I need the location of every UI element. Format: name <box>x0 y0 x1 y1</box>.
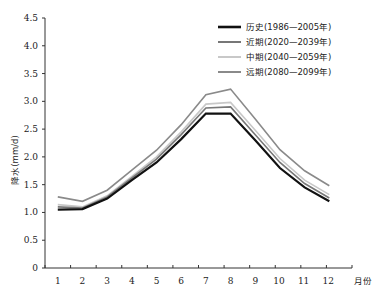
x-tick-label: 2 <box>80 276 86 286</box>
legend-label: 近期(2020—2039年) <box>246 37 331 47</box>
y-tick-label: 0.5 <box>24 235 39 245</box>
x-tick-label: 3 <box>104 276 110 286</box>
x-tick-label: 7 <box>203 276 209 286</box>
series-line <box>58 102 330 206</box>
x-tick-label: 1 <box>55 276 61 286</box>
x-tick-label: 11 <box>298 276 309 286</box>
y-tick-label: 0 <box>32 263 38 273</box>
x-tick-label: 8 <box>228 276 234 286</box>
y-tick-label: 3.5 <box>24 69 39 79</box>
y-axis-label: 降水(mm/d) <box>10 135 20 184</box>
y-tick-label: 1.5 <box>24 180 39 190</box>
series-lines <box>58 89 330 210</box>
y-tick-label: 2.0 <box>24 152 39 162</box>
precipitation-line-chart: 00.51.01.52.02.53.03.54.04.5123456789101… <box>0 0 375 292</box>
y-tick-label: 2.5 <box>24 124 39 134</box>
x-tick-label: 10 <box>273 276 285 286</box>
legend-label: 历史(1986—2005年) <box>246 22 331 32</box>
legend: 历史(1986—2005年)近期(2020—2039年)中期(2040—2059… <box>218 22 331 77</box>
x-tick-label: 4 <box>129 276 135 286</box>
legend-label: 中期(2040—2059年) <box>246 52 331 62</box>
series-line <box>58 89 330 201</box>
legend-label: 远期(2080—2099年) <box>246 67 331 77</box>
x-axis-label: 月份 <box>354 276 372 286</box>
y-tick-label: 3.0 <box>24 96 39 106</box>
series-line <box>58 114 330 210</box>
x-tick-label: 6 <box>178 276 184 286</box>
x-tick-label: 5 <box>154 276 160 286</box>
x-tick-label: 9 <box>252 276 258 286</box>
y-tick-label: 1.0 <box>24 207 39 217</box>
y-tick-label: 4.5 <box>24 13 39 23</box>
y-tick-label: 4.0 <box>24 41 39 51</box>
x-tick-label: 12 <box>323 276 334 286</box>
